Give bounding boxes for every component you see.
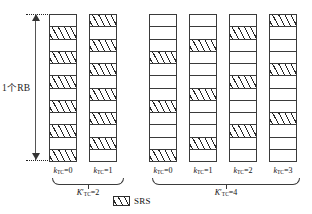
column-label-subscript: TC xyxy=(237,169,244,175)
srs-subcarrier-cell xyxy=(90,138,116,150)
group-brace-ktc2 xyxy=(52,178,124,185)
empty-subcarrier-cell xyxy=(90,27,116,39)
srs-subcarrier-cell xyxy=(50,76,76,88)
resource-column-ktc2-ktc0 xyxy=(49,14,77,162)
empty-subcarrier-cell xyxy=(50,113,76,125)
group-label-ktc4: K′TC=4 xyxy=(186,188,266,197)
empty-subcarrier-cell xyxy=(190,113,216,125)
empty-subcarrier-cell xyxy=(270,150,296,161)
empty-subcarrier-cell xyxy=(230,113,256,125)
srs-subcarrier-cell xyxy=(50,101,76,113)
empty-subcarrier-cell xyxy=(90,101,116,113)
column-label-value: =1 xyxy=(204,166,213,175)
column-label-subscript: TC xyxy=(197,169,204,175)
srs-subcarrier-cell xyxy=(50,27,76,39)
column-label-value: =2 xyxy=(244,166,253,175)
column-label-subscript: TC xyxy=(57,169,64,175)
srs-subcarrier-cell xyxy=(190,138,216,150)
empty-subcarrier-cell xyxy=(230,40,256,52)
legend-label: SRS xyxy=(134,196,151,206)
empty-subcarrier-cell xyxy=(90,52,116,64)
column-label-ktc2-ktc1: kTC=1 xyxy=(76,166,130,175)
empty-subcarrier-cell xyxy=(190,15,216,27)
srs-subcarrier-cell xyxy=(190,89,216,101)
rb-bottom-guide xyxy=(26,160,50,161)
empty-subcarrier-cell xyxy=(50,64,76,76)
empty-subcarrier-cell xyxy=(150,125,176,137)
empty-subcarrier-cell xyxy=(270,138,296,150)
column-label-subscript: TC xyxy=(277,169,284,175)
resource-column-ktc4-ktc3 xyxy=(269,14,297,162)
rb-label: 1个RB xyxy=(2,80,30,94)
srs-subcarrier-cell xyxy=(230,76,256,88)
empty-subcarrier-cell xyxy=(190,52,216,64)
resource-column-ktc2-ktc1 xyxy=(89,14,117,162)
empty-subcarrier-cell xyxy=(150,15,176,27)
empty-subcarrier-cell xyxy=(190,125,216,137)
srs-subcarrier-cell xyxy=(90,40,116,52)
column-label-subscript: TC xyxy=(157,169,164,175)
resource-column-ktc4-ktc1 xyxy=(189,14,217,162)
empty-subcarrier-cell xyxy=(150,89,176,101)
column-label-value: =3 xyxy=(284,166,293,175)
empty-subcarrier-cell xyxy=(90,150,116,161)
empty-subcarrier-cell xyxy=(230,138,256,150)
empty-subcarrier-cell xyxy=(150,76,176,88)
empty-subcarrier-cell xyxy=(190,101,216,113)
empty-subcarrier-cell xyxy=(230,150,256,161)
column-label-ktc4-ktc3: kTC=3 xyxy=(256,166,310,175)
srs-subcarrier-cell xyxy=(50,52,76,64)
empty-subcarrier-cell xyxy=(150,138,176,150)
legend: SRS xyxy=(113,196,151,206)
empty-subcarrier-cell xyxy=(190,27,216,39)
srs-subcarrier-cell xyxy=(50,125,76,137)
srs-subcarrier-cell xyxy=(150,150,176,161)
group-label-subscript: TC xyxy=(84,191,91,197)
srs-subcarrier-cell xyxy=(90,89,116,101)
empty-subcarrier-cell xyxy=(230,89,256,101)
empty-subcarrier-cell xyxy=(150,27,176,39)
srs-subcarrier-cell xyxy=(230,125,256,137)
srs-subcarrier-cell xyxy=(270,15,296,27)
group-label-value: =4 xyxy=(229,188,238,197)
empty-subcarrier-cell xyxy=(230,15,256,27)
empty-subcarrier-cell xyxy=(270,101,296,113)
column-label-subscript: TC xyxy=(97,169,104,175)
group-brace-ktc4 xyxy=(152,178,300,185)
srs-subcarrier-cell xyxy=(90,113,116,125)
srs-hatch-swatch xyxy=(113,196,130,206)
empty-subcarrier-cell xyxy=(150,40,176,52)
srs-subcarrier-cell xyxy=(270,113,296,125)
group-label-subscript: TC xyxy=(222,191,229,197)
srs-subcarrier-cell xyxy=(190,40,216,52)
srs-subcarrier-cell xyxy=(230,27,256,39)
rb-measure-arrow xyxy=(35,14,36,160)
empty-subcarrier-cell xyxy=(50,138,76,150)
column-label-value: =0 xyxy=(164,166,173,175)
empty-subcarrier-cell xyxy=(270,125,296,137)
srs-subcarrier-cell xyxy=(150,52,176,64)
empty-subcarrier-cell xyxy=(90,125,116,137)
resource-column-ktc4-ktc0 xyxy=(149,14,177,162)
empty-subcarrier-cell xyxy=(190,64,216,76)
empty-subcarrier-cell xyxy=(150,113,176,125)
empty-subcarrier-cell xyxy=(270,52,296,64)
empty-subcarrier-cell xyxy=(270,27,296,39)
empty-subcarrier-cell xyxy=(50,40,76,52)
empty-subcarrier-cell xyxy=(270,76,296,88)
srs-subcarrier-cell xyxy=(270,64,296,76)
srs-subcarrier-cell xyxy=(90,64,116,76)
empty-subcarrier-cell xyxy=(190,76,216,88)
empty-subcarrier-cell xyxy=(90,76,116,88)
empty-subcarrier-cell xyxy=(230,52,256,64)
resource-column-ktc4-ktc2 xyxy=(229,14,257,162)
column-label-value: =1 xyxy=(104,166,113,175)
group-label-value: =2 xyxy=(91,188,100,197)
empty-subcarrier-cell xyxy=(190,150,216,161)
empty-subcarrier-cell xyxy=(270,40,296,52)
srs-subcarrier-cell xyxy=(90,15,116,27)
empty-subcarrier-cell xyxy=(270,89,296,101)
srs-subcarrier-cell xyxy=(50,150,76,161)
empty-subcarrier-cell xyxy=(50,15,76,27)
empty-subcarrier-cell xyxy=(50,89,76,101)
